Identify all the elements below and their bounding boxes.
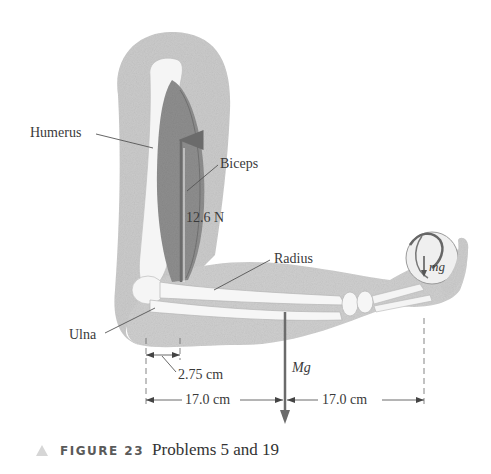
elbow-bone: [132, 276, 164, 304]
dimension-2-75-label: 2.75 cm: [178, 368, 223, 382]
arm-illustration: [0, 0, 491, 474]
figure-caption: FIGURE 23 Problems 5 and 19: [36, 440, 279, 460]
humerus-label: Humerus: [30, 126, 81, 140]
figure-number: FIGURE 23: [60, 444, 144, 458]
dimension-left-17-label: 17.0 cm: [185, 393, 230, 407]
triangle-icon: [36, 445, 48, 456]
biceps-label: Biceps: [220, 157, 258, 171]
ulna-label: Ulna: [69, 328, 96, 342]
figure-caption-text: Problems 5 and 19: [152, 440, 279, 460]
dimension-right-17-label: 17.0 cm: [322, 393, 367, 407]
radius-label: Radius: [274, 252, 313, 266]
arm-diagram: Humerus Biceps 12.6 N Radius Ulna mg Mg …: [0, 0, 491, 474]
biceps-force-label: 12.6 N: [186, 211, 224, 225]
ball-weight-label: mg: [429, 260, 445, 273]
arm-weight-label: Mg: [292, 361, 311, 375]
